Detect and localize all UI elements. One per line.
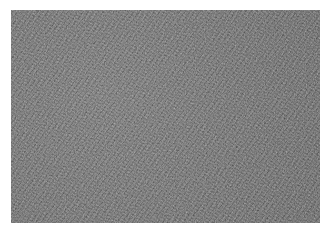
texture-overlay xyxy=(11,10,320,223)
micrograph-image xyxy=(11,10,320,223)
